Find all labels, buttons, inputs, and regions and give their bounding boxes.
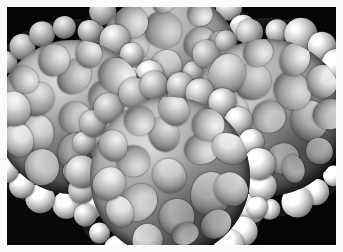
micrograph-figure	[0, 0, 343, 252]
capsid-spike	[51, 13, 79, 41]
capsomere	[185, 7, 215, 29]
micrograph-frame	[0, 0, 343, 252]
micrograph-black-field	[7, 7, 336, 245]
